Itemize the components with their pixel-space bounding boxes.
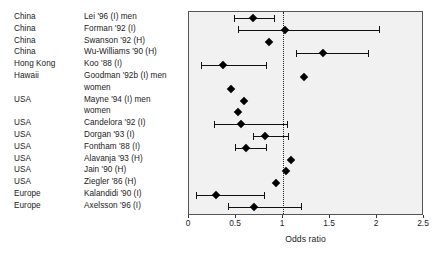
study-label: Kalandidi '90 (I) <box>84 188 141 200</box>
study-label: Lei '96 (I) men <box>84 11 137 23</box>
ci-cap-lower <box>235 144 236 151</box>
odds-ratio-marker <box>319 49 327 57</box>
odds-ratio-marker <box>265 37 273 45</box>
x-tick-label: 0.5 <box>229 218 241 228</box>
ci-cap-upper <box>274 15 275 22</box>
study-label: Axelsson '96 (I) <box>84 200 141 212</box>
table-row: USAFontham '88 (I) <box>0 141 188 153</box>
odds-ratio-marker <box>219 61 227 69</box>
confidence-interval-line <box>253 136 288 137</box>
country-label: USA <box>14 129 31 141</box>
ci-cap-lower <box>234 15 235 22</box>
ci-cap-upper <box>264 192 265 199</box>
country-label: China <box>14 23 36 35</box>
odds-ratio-marker <box>249 14 257 22</box>
table-row: ChinaLei '96 (I) men <box>0 11 188 23</box>
ci-cap-lower <box>201 62 202 69</box>
forest-plot-figure: ChinaLei '96 (I) menChinaForman '92 (I)C… <box>0 0 437 255</box>
x-tick-label: 2.5 <box>417 218 429 228</box>
x-tick-label: 0 <box>186 218 191 228</box>
country-label: China <box>14 35 36 47</box>
country-label: Hawaii <box>14 70 39 82</box>
ci-cap-upper <box>301 203 302 210</box>
study-label: Alavanja '93 (H) <box>84 153 143 165</box>
table-row: women <box>0 82 188 94</box>
odds-ratio-marker <box>287 155 295 163</box>
odds-ratio-marker <box>234 108 242 116</box>
country-label: Hong Kong <box>14 58 55 70</box>
study-label-table: ChinaLei '96 (I) menChinaForman '92 (I)C… <box>0 11 188 221</box>
ci-cap-upper <box>379 26 380 33</box>
table-row: EuropeKalandidi '90 (I) <box>0 188 188 200</box>
table-row: Hong KongKoo '88 (I) <box>0 58 188 70</box>
ci-cap-lower <box>296 50 297 57</box>
table-row: women <box>0 105 188 117</box>
study-label: Goodman '92b (I) men <box>84 70 167 82</box>
confidence-interval-line <box>235 148 266 149</box>
table-row: USACandelora '92 (I) <box>0 117 188 129</box>
table-row: USAZiegler '86 (H) <box>0 176 188 188</box>
table-row: USADorgan '93 (I) <box>0 129 188 141</box>
study-label: Jain '90 (H) <box>84 164 126 176</box>
study-label: women <box>84 82 111 94</box>
country-label: USA <box>14 176 31 188</box>
odds-ratio-marker <box>227 85 235 93</box>
country-label: USA <box>14 141 31 153</box>
ci-cap-lower <box>196 192 197 199</box>
study-label: Koo '88 (I) <box>84 58 122 70</box>
odds-ratio-marker <box>261 132 269 140</box>
table-row: USAMayne '94 (I) men <box>0 94 188 106</box>
ci-cap-lower <box>214 121 215 128</box>
confidence-interval-line <box>228 207 301 208</box>
study-label: Fontham '88 (I) <box>84 141 140 153</box>
ci-cap-upper <box>266 144 267 151</box>
table-row: ChinaWu-Williams '90 (H) <box>0 46 188 58</box>
country-label: China <box>14 11 36 23</box>
study-label: Forman '92 (I) <box>84 23 136 35</box>
confidence-interval-line <box>296 53 367 54</box>
country-label: USA <box>14 164 31 176</box>
table-row: ChinaForman '92 (I) <box>0 23 188 35</box>
ci-cap-lower <box>228 203 229 210</box>
table-row: HawaiiGoodman '92b (I) men <box>0 70 188 82</box>
odds-ratio-marker <box>281 26 289 34</box>
country-label: China <box>14 46 36 58</box>
odds-ratio-marker <box>212 191 220 199</box>
table-row: ChinaSwanson '92 (H) <box>0 35 188 47</box>
odds-ratio-marker <box>242 144 250 152</box>
x-tick-label: 1.5 <box>323 218 335 228</box>
ci-cap-upper <box>287 121 288 128</box>
country-label: Europe <box>14 188 41 200</box>
study-label: Candelora '92 (I) <box>84 117 146 129</box>
ci-cap-upper <box>266 62 267 69</box>
study-label: women <box>84 105 111 117</box>
ci-cap-lower <box>253 133 254 140</box>
table-row: USAJain '90 (H) <box>0 164 188 176</box>
x-axis-title: Odds ratio <box>188 234 423 244</box>
ci-cap-upper <box>288 133 289 140</box>
study-label: Mayne '94 (I) men <box>84 94 151 106</box>
odds-ratio-marker <box>272 179 280 187</box>
country-label: Europe <box>14 200 41 212</box>
study-label: Dorgan '93 (I) <box>84 129 135 141</box>
country-label: USA <box>14 94 31 106</box>
reference-line <box>283 12 284 214</box>
x-axis: 00.511.522.5 Odds ratio <box>188 215 423 255</box>
country-label: USA <box>14 153 31 165</box>
confidence-interval-line <box>201 65 266 66</box>
study-label: Wu-Williams '90 (H) <box>84 46 157 58</box>
table-row: EuropeAxelsson '96 (I) <box>0 200 188 212</box>
x-tick-label: 2 <box>374 218 379 228</box>
ci-cap-lower <box>238 26 239 33</box>
odds-ratio-marker <box>299 73 307 81</box>
ci-cap-upper <box>368 50 369 57</box>
study-label: Ziegler '86 (H) <box>84 176 136 188</box>
study-label: Swanson '92 (H) <box>84 35 145 47</box>
confidence-interval-line <box>214 124 286 125</box>
odds-ratio-marker <box>236 120 244 128</box>
country-label: USA <box>14 117 31 129</box>
confidence-interval-line <box>196 195 265 196</box>
plot-panel <box>188 11 423 215</box>
odds-ratio-marker <box>239 96 247 104</box>
table-row: USAAlavanja '93 (H) <box>0 153 188 165</box>
